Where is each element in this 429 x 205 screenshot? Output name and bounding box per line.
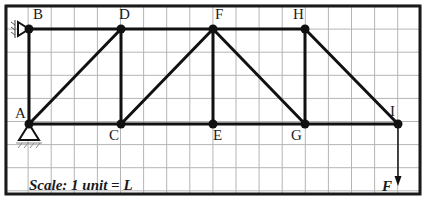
node-label-h: H — [293, 6, 304, 22]
node-label-e: E — [213, 127, 222, 143]
node-h-icon — [301, 25, 310, 34]
node-label-i: I — [390, 103, 395, 119]
node-label-d: D — [119, 6, 130, 22]
node-i-icon — [394, 120, 403, 129]
node-f-icon — [209, 25, 218, 34]
node-label-g: G — [291, 127, 302, 143]
node-d-icon — [117, 25, 126, 34]
load-label: F — [381, 178, 392, 194]
node-label-b: B — [33, 6, 43, 22]
node-label-a: A — [15, 105, 26, 121]
node-g-icon — [301, 120, 310, 129]
truss-diagram: F ABCDEFGHI Scale: 1 unit = L — [0, 0, 429, 205]
node-label-f: F — [215, 6, 223, 22]
node-b-icon — [25, 25, 34, 34]
truss-canvas: F ABCDEFGHI Scale: 1 unit = L — [0, 0, 429, 205]
node-a-icon — [25, 120, 34, 129]
scale-label: Scale: 1 unit = L — [29, 177, 133, 193]
node-label-c: C — [109, 127, 119, 143]
